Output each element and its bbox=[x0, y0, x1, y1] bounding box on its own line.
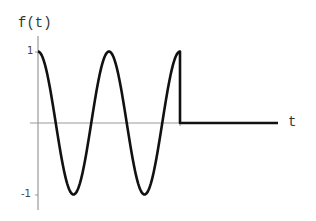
x-axis-label: t bbox=[288, 114, 296, 130]
plot-canvas bbox=[0, 0, 316, 221]
y-tick-label-1: 1 bbox=[27, 45, 33, 56]
y-axis-label: f(t) bbox=[18, 15, 52, 31]
y-tick-label-neg1: -1 bbox=[21, 188, 31, 199]
